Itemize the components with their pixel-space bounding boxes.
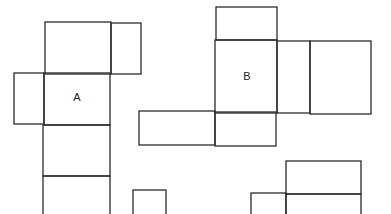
net-b-face	[277, 41, 310, 113]
net-d-face	[286, 161, 361, 194]
net-d-face	[286, 194, 361, 214]
net-b-face	[215, 112, 276, 146]
net-a-face	[45, 22, 111, 74]
cube-nets-diagram: AB	[0, 0, 391, 214]
net-a-face	[111, 23, 141, 74]
net-a-face	[43, 176, 110, 214]
net-c-face	[133, 190, 166, 214]
net-b-face	[310, 41, 371, 114]
net-b-face	[216, 7, 277, 40]
net-d	[251, 161, 361, 214]
net-b: B	[139, 7, 371, 146]
net-b-label: B	[243, 70, 250, 82]
net-a-label: A	[73, 91, 81, 103]
net-d-face	[251, 193, 286, 214]
net-a-face	[43, 125, 110, 176]
net-a: A	[14, 22, 141, 214]
net-a-face	[14, 73, 44, 124]
net-b-face	[139, 111, 215, 145]
net-c	[133, 190, 166, 214]
